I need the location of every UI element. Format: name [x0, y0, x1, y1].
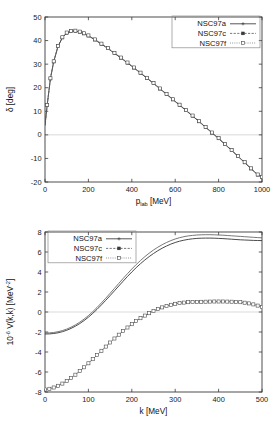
- data-marker-open-square: [256, 173, 259, 176]
- y-axis-tick-label: -4: [35, 348, 42, 357]
- data-marker-open-square: [239, 301, 242, 304]
- data-marker-open-square: [241, 41, 244, 44]
- x-axis-title: k [MeV]: [140, 407, 168, 416]
- data-marker-filled-square: [242, 32, 245, 35]
- data-marker-open-square: [191, 114, 194, 117]
- y-axis-tick-label: 2: [37, 288, 41, 297]
- y-axis-tick-label: -6: [35, 368, 42, 377]
- data-marker-open-square: [56, 384, 59, 387]
- data-marker-open-square: [243, 161, 246, 164]
- x-axis-tick-label: 400: [126, 185, 138, 194]
- y-axis-tick-label: 6: [37, 248, 41, 257]
- data-marker-open-square: [208, 300, 211, 303]
- data-marker-open-square: [204, 125, 207, 128]
- data-marker-open-square: [217, 300, 220, 303]
- data-marker-open-square: [237, 155, 240, 158]
- data-marker-open-square: [104, 345, 107, 348]
- x-axis-tick-label: 0: [43, 185, 47, 194]
- data-marker-open-square: [221, 300, 224, 303]
- data-marker-open-square: [65, 379, 68, 382]
- data-marker-open-square: [139, 71, 142, 74]
- series-NSC97f: [45, 29, 264, 178]
- data-marker-open-square: [230, 300, 233, 303]
- data-marker-open-square: [106, 47, 109, 50]
- data-marker-open-square: [69, 376, 72, 379]
- data-marker-open-square: [74, 29, 77, 32]
- legend-label-NSC97f: NSC97f: [199, 39, 226, 48]
- data-marker-open-square: [87, 362, 90, 365]
- data-marker-open-square: [234, 300, 237, 303]
- data-marker-open-square: [109, 341, 112, 344]
- data-marker-open-square: [91, 358, 94, 361]
- data-marker-open-square: [174, 302, 177, 305]
- data-marker-open-square: [217, 137, 220, 140]
- y-axis-tick-label: 30: [33, 60, 41, 69]
- data-marker-open-square: [113, 337, 116, 340]
- y-axis-tick-label: -2: [35, 328, 42, 337]
- data-marker-open-square: [52, 60, 55, 63]
- y-axis-tick-label: 0: [37, 130, 41, 139]
- data-marker-open-square: [145, 76, 148, 79]
- data-marker-open-square: [148, 312, 151, 315]
- data-marker-open-square: [161, 306, 164, 309]
- legend-label-NSC97a: NSC97a: [73, 234, 102, 243]
- y-axis-tick-label: -20: [31, 178, 42, 187]
- data-marker-open-square: [243, 301, 246, 304]
- legend-label-NSC97f: NSC97f: [75, 254, 102, 263]
- x-axis-tick-label: 400: [212, 395, 224, 404]
- data-marker-open-square: [182, 301, 185, 304]
- data-marker-open-square: [165, 304, 168, 307]
- x-axis-tick-label: 300: [169, 395, 181, 404]
- y-axis-title: 10-6 V(k,k) [MeV-2]: [5, 279, 15, 345]
- series-NSC97c: [45, 29, 263, 178]
- data-marker-open-square: [130, 323, 133, 326]
- data-marker-open-square: [69, 29, 72, 32]
- data-marker-open-square: [117, 256, 120, 259]
- data-marker-open-square: [139, 317, 142, 320]
- data-marker-open-square: [113, 51, 116, 54]
- data-marker-open-square: [247, 302, 250, 305]
- y-axis-tick-label: 0: [37, 308, 41, 317]
- y-axis-tick-label: 20: [33, 83, 41, 92]
- data-marker-open-square: [65, 31, 68, 34]
- x-axis-tick-label: 800: [212, 185, 224, 194]
- data-marker-open-square: [126, 61, 129, 64]
- figure-container: 02004006008001000-20-1001020304050δ [deg…: [0, 0, 277, 430]
- data-marker-open-square: [171, 98, 174, 101]
- data-marker-open-square: [46, 103, 49, 106]
- legend-label-NSC97c: NSC97c: [198, 29, 226, 38]
- data-marker-open-square: [78, 370, 81, 373]
- y-axis-tick-label: 8: [37, 228, 41, 237]
- data-marker-filled-square: [118, 247, 121, 250]
- data-marker-open-square: [100, 42, 103, 45]
- x-axis-tick-label: 100: [82, 395, 94, 404]
- data-marker-open-square: [230, 148, 233, 151]
- series-line: [45, 31, 262, 177]
- data-marker-open-square: [152, 309, 155, 312]
- data-marker-open-square: [61, 36, 64, 39]
- data-marker-open-square: [78, 30, 81, 33]
- data-marker-open-square: [87, 34, 90, 37]
- data-marker-open-square: [117, 333, 120, 336]
- data-marker-open-square: [191, 300, 194, 303]
- data-marker-open-square: [224, 143, 227, 146]
- bottom-chart-svg: 0100200300400500-8-6-4-20246810-6 V(k,k)…: [0, 215, 277, 430]
- data-marker-open-square: [213, 300, 216, 303]
- data-marker-open-square: [165, 92, 168, 95]
- data-marker-open-square: [48, 387, 51, 390]
- data-marker-open-square: [158, 87, 161, 90]
- y-axis-tick-label: 40: [33, 36, 41, 45]
- y-axis-title: δ [deg]: [6, 87, 15, 112]
- plot-frame: [45, 17, 262, 182]
- data-marker-open-square: [204, 300, 207, 303]
- data-marker-open-square: [49, 77, 52, 80]
- x-axis-title: plab [MeV]: [136, 197, 172, 207]
- data-marker-open-square: [178, 302, 181, 305]
- data-marker-open-square: [252, 303, 255, 306]
- data-marker-open-square: [169, 303, 172, 306]
- x-axis-tick-label: 500: [256, 395, 268, 404]
- data-marker-plus: [117, 237, 120, 240]
- chart-panel-top: 02004006008001000-20-1001020304050δ [deg…: [0, 0, 277, 215]
- y-axis-tick-label: -10: [31, 154, 42, 163]
- data-marker-open-square: [61, 382, 64, 385]
